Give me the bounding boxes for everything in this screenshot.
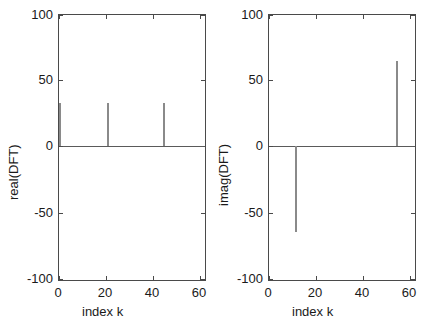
zero-baseline-real: [59, 146, 205, 147]
y-ticklabel-n50-imag: -50: [218, 206, 263, 219]
x-tick-0-top-real: [59, 15, 60, 19]
y-tick-n100-right-real: [201, 279, 205, 280]
x-tick-40-top-imag: [363, 15, 364, 19]
x-tick-40-imag: [363, 276, 364, 280]
stem-imag-k11: [295, 146, 297, 232]
x-ticklabel-20-imag: 20: [295, 286, 335, 299]
x-tick-40-top-real: [153, 15, 154, 19]
x-tick-0-real: [59, 276, 60, 280]
panel-imag-dft: 100 50 0 -50 -100 0 20 40 60 index k ima…: [213, 0, 426, 328]
stem-real-k45: [163, 103, 165, 146]
zero-baseline-imag: [269, 146, 415, 147]
x-tick-40-real: [153, 276, 154, 280]
dft-figure: 100 50 0 -50 -100 0 20 40 60 index k rea…: [0, 0, 427, 328]
x-ticklabel-0-real: 0: [38, 286, 78, 299]
y-ticklabel-50-real: 50: [8, 73, 53, 86]
y-ticklabel-100-real: 100: [8, 8, 53, 21]
x-tick-60-top-real: [200, 15, 201, 19]
x-tick-20-imag: [316, 276, 317, 280]
stem-imag-k54: [396, 61, 398, 146]
x-axis-title-imag: index k: [292, 304, 333, 319]
x-ticklabel-20-real: 20: [85, 286, 125, 299]
x-ticklabel-0-imag: 0: [248, 286, 288, 299]
x-tick-0-imag: [269, 276, 270, 280]
y-tick-100-right-imag: [411, 15, 415, 16]
y-ticklabel-n100-real: -100: [8, 272, 53, 285]
stem-real-k21: [107, 103, 109, 146]
y-axis-title-real: real(DFT): [6, 144, 21, 200]
x-ticklabel-60-imag: 60: [389, 286, 427, 299]
x-ticklabel-40-real: 40: [132, 286, 172, 299]
y-tick-n100-right-imag: [411, 279, 415, 280]
x-tick-20-real: [106, 276, 107, 280]
y-tick-n50-right-real: [201, 213, 205, 214]
y-tick-0-real: [59, 146, 63, 147]
y-ticklabel-100-imag: 100: [218, 8, 263, 21]
y-tick-n50-real: [59, 213, 63, 214]
x-axis-title-real: index k: [82, 304, 123, 319]
y-tick-50-real: [59, 80, 63, 81]
y-tick-100-right-real: [201, 15, 205, 16]
x-tick-60-real: [200, 276, 201, 280]
y-tick-0-imag: [269, 146, 273, 147]
y-ticklabel-n100-imag: -100: [218, 272, 263, 285]
y-tick-50-imag: [269, 80, 273, 81]
x-tick-20-top-imag: [316, 15, 317, 19]
y-tick-n50-right-imag: [411, 213, 415, 214]
y-tick-50-right-real: [201, 80, 205, 81]
stem-real-k0: [59, 103, 61, 146]
y-axis-title-imag: imag(DFT): [216, 144, 231, 206]
x-tick-0-top-imag: [269, 15, 270, 19]
x-tick-60-top-imag: [410, 15, 411, 19]
x-ticklabel-40-imag: 40: [342, 286, 382, 299]
y-ticklabel-50-imag: 50: [218, 73, 263, 86]
panel-real-dft: 100 50 0 -50 -100 0 20 40 60 index k rea…: [0, 0, 213, 328]
x-tick-60-imag: [410, 276, 411, 280]
y-tick-n50-imag: [269, 213, 273, 214]
plot-area-imag: [268, 14, 416, 281]
plot-area-real: [58, 14, 206, 281]
y-ticklabel-n50-real: -50: [8, 206, 53, 219]
y-tick-50-right-imag: [411, 80, 415, 81]
x-tick-20-top-real: [106, 15, 107, 19]
